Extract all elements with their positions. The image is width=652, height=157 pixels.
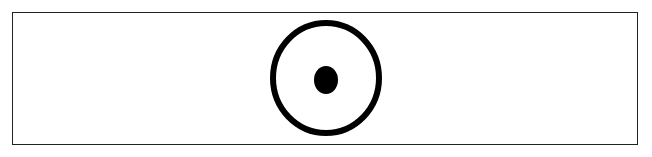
circumpunct-symbol	[0, 0, 652, 157]
center-dot	[314, 66, 338, 94]
